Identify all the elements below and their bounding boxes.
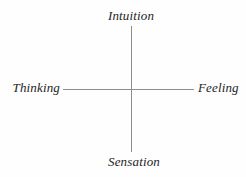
axis-label-thinking: Thinking <box>0 81 60 95</box>
horizontal-axis-line <box>63 89 194 90</box>
axis-label-intuition: Intuition <box>0 9 246 23</box>
axis-label-feeling: Feeling <box>198 81 239 95</box>
axis-label-sensation: Sensation <box>0 155 246 169</box>
axis-cross-diagram: Intuition Sensation Thinking Feeling <box>0 0 246 177</box>
